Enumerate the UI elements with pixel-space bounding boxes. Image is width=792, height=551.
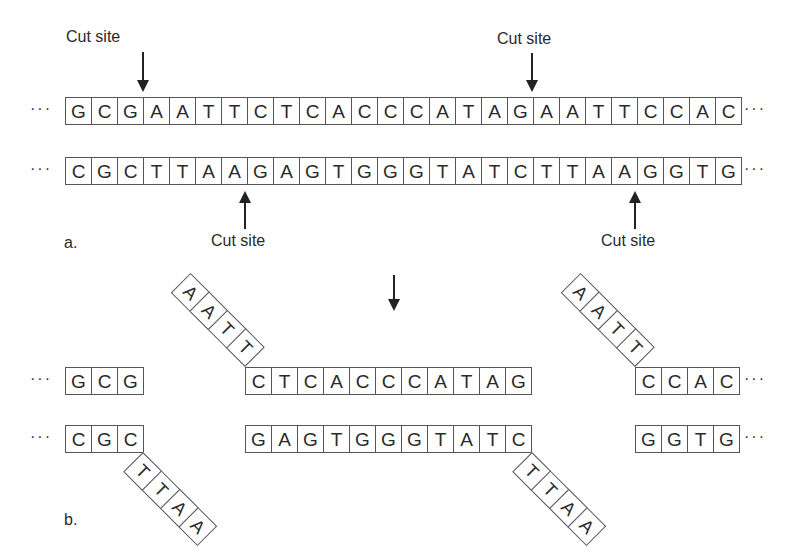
fragment-left-top: GCG bbox=[65, 367, 144, 393]
process-arrow-down-icon bbox=[393, 275, 395, 309]
nucleotide-cell: A bbox=[479, 367, 506, 395]
fragment-middle-bottom: GAGTGGGTATC bbox=[245, 425, 532, 451]
nucleotide-cell: C bbox=[65, 425, 92, 453]
nucleotide-cell: A bbox=[533, 97, 560, 125]
cut-site-arrow-down-icon bbox=[531, 53, 533, 90]
nucleotide-cell: G bbox=[377, 157, 404, 185]
nucleotide-cell: T bbox=[689, 157, 716, 185]
top-strand: GCGAATTCTCACCCATAGAATTCCAC bbox=[65, 97, 742, 123]
ellipsis: ··· bbox=[744, 428, 766, 446]
nucleotide-cell: G bbox=[245, 425, 272, 453]
nucleotide-cell: C bbox=[375, 367, 402, 395]
nucleotide-cell: C bbox=[713, 367, 740, 395]
nucleotide-cell: G bbox=[65, 97, 92, 125]
ellipsis: ··· bbox=[30, 160, 52, 178]
nucleotide-cell: G bbox=[507, 97, 534, 125]
nucleotide-cell: C bbox=[91, 367, 118, 395]
nucleotide-cell: A bbox=[559, 97, 586, 125]
ellipsis: ··· bbox=[30, 370, 52, 388]
bottom-strand: CGCTTAAGAGTGGGTATCTTAAGGTG bbox=[65, 157, 742, 183]
nucleotide-cell: C bbox=[117, 157, 144, 185]
overhang-aatt-right: TTAA bbox=[561, 274, 654, 367]
nucleotide-cell: T bbox=[323, 425, 350, 453]
nucleotide-cell: C bbox=[401, 367, 428, 395]
nucleotide-cell: C bbox=[297, 367, 324, 395]
nucleotide-cell: G bbox=[247, 157, 274, 185]
nucleotide-cell: C bbox=[403, 97, 430, 125]
nucleotide-cell: G bbox=[401, 425, 428, 453]
nucleotide-cell: A bbox=[143, 97, 170, 125]
nucleotide-cell: A bbox=[169, 97, 196, 125]
nucleotide-cell: C bbox=[377, 97, 404, 125]
nucleotide-cell: A bbox=[273, 157, 300, 185]
nucleotide-cell: T bbox=[271, 367, 298, 395]
nucleotide-cell: T bbox=[533, 157, 560, 185]
nucleotide-cell: C bbox=[505, 425, 532, 453]
nucleotide-cell: T bbox=[453, 367, 480, 395]
nucleotide-cell: G bbox=[661, 425, 688, 453]
nucleotide-cell: A bbox=[195, 157, 222, 185]
cut-site-arrow-down-icon bbox=[142, 52, 144, 90]
nucleotide-cell: G bbox=[715, 157, 742, 185]
nucleotide-cell: G bbox=[91, 157, 118, 185]
nucleotide-cell: A bbox=[687, 367, 714, 395]
nucleotide-cell: G bbox=[713, 425, 740, 453]
nucleotide-cell: C bbox=[349, 367, 376, 395]
nucleotide-cell: C bbox=[299, 97, 326, 125]
cut-site-label-top-2: Cut site bbox=[497, 30, 551, 48]
fragment-middle-top: CTCACCCATAG bbox=[245, 367, 532, 393]
nucleotide-cell: G bbox=[117, 367, 144, 395]
cut-site-arrow-up-icon bbox=[244, 193, 246, 229]
nucleotide-cell: A bbox=[427, 367, 454, 395]
overhang-aatt-middle: TTAA bbox=[171, 274, 264, 367]
nucleotide-cell: A bbox=[221, 157, 248, 185]
nucleotide-cell: G bbox=[663, 157, 690, 185]
nucleotide-cell: T bbox=[273, 97, 300, 125]
nucleotide-cell: G bbox=[351, 157, 378, 185]
nucleotide-cell: C bbox=[65, 157, 92, 185]
nucleotide-cell: T bbox=[169, 157, 196, 185]
nucleotide-cell: T bbox=[479, 425, 506, 453]
nucleotide-cell: T bbox=[559, 157, 586, 185]
nucleotide-cell: T bbox=[455, 97, 482, 125]
nucleotide-cell: G bbox=[299, 157, 326, 185]
nucleotide-cell: A bbox=[585, 157, 612, 185]
nucleotide-cell: G bbox=[349, 425, 376, 453]
nucleotide-cell: T bbox=[143, 157, 170, 185]
nucleotide-cell: C bbox=[91, 97, 118, 125]
nucleotide-cell: T bbox=[325, 157, 352, 185]
nucleotide-cell: G bbox=[117, 97, 144, 125]
nucleotide-cell: T bbox=[611, 97, 638, 125]
nucleotide-cell: G bbox=[403, 157, 430, 185]
nucleotide-cell: C bbox=[247, 97, 274, 125]
cut-site-label-bottom-2: Cut site bbox=[601, 232, 655, 250]
ellipsis: ··· bbox=[744, 160, 766, 178]
nucleotide-cell: C bbox=[635, 367, 662, 395]
nucleotide-cell: C bbox=[663, 97, 690, 125]
nucleotide-cell: A bbox=[325, 97, 352, 125]
nucleotide-cell: T bbox=[481, 157, 508, 185]
nucleotide-cell: T bbox=[429, 157, 456, 185]
nucleotide-cell: T bbox=[427, 425, 454, 453]
nucleotide-cell: A bbox=[453, 425, 480, 453]
nucleotide-cell: G bbox=[297, 425, 324, 453]
ellipsis: ··· bbox=[744, 100, 766, 118]
overhang-ttaa-left: TTAA bbox=[125, 452, 218, 545]
nucleotide-cell: G bbox=[91, 425, 118, 453]
ellipsis: ··· bbox=[744, 370, 766, 388]
nucleotide-cell: G bbox=[637, 157, 664, 185]
nucleotide-cell: A bbox=[689, 97, 716, 125]
nucleotide-cell: T bbox=[585, 97, 612, 125]
nucleotide-cell: C bbox=[117, 425, 144, 453]
nucleotide-cell: A bbox=[611, 157, 638, 185]
fragment-right-top: CCAC bbox=[635, 367, 740, 393]
nucleotide-cell: A bbox=[481, 97, 508, 125]
nucleotide-cell: C bbox=[637, 97, 664, 125]
cut-site-arrow-up-icon bbox=[634, 193, 636, 229]
nucleotide-cell: A bbox=[323, 367, 350, 395]
nucleotide-cell: C bbox=[245, 367, 272, 395]
nucleotide-cell: G bbox=[65, 367, 92, 395]
ellipsis: ··· bbox=[30, 428, 52, 446]
part-a-label: a. bbox=[64, 234, 77, 252]
nucleotide-cell: C bbox=[507, 157, 534, 185]
